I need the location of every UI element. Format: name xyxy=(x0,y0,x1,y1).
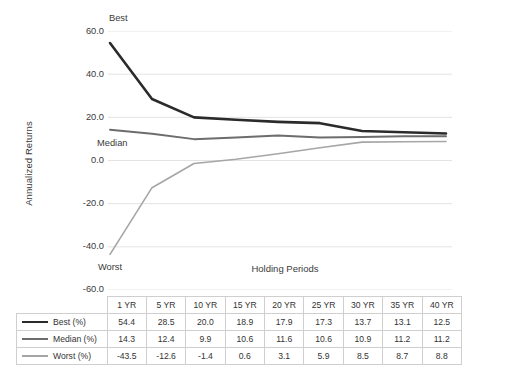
column-header: 10 YR xyxy=(186,297,225,314)
legend-swatch-median xyxy=(22,338,48,340)
table-cell: 17.9 xyxy=(265,314,304,331)
legend-label: Best (%) xyxy=(53,318,86,327)
table-cell: 10.6 xyxy=(304,331,343,348)
legend-label: Median (%) xyxy=(53,335,97,344)
column-header: 30 YR xyxy=(343,297,382,314)
table-cell: 14.3 xyxy=(107,331,146,348)
annotation-median: Median xyxy=(97,138,128,148)
gridlines xyxy=(108,31,452,290)
table-cell: 13.7 xyxy=(343,314,382,331)
table-cell: 11.6 xyxy=(265,331,304,348)
table-cell: -1.4 xyxy=(186,348,225,365)
table-cell: 54.4 xyxy=(107,314,146,331)
table-row: Median (%)14.312.49.910.611.610.610.911.… xyxy=(17,331,462,348)
column-header: 15 YR xyxy=(225,297,264,314)
table-cell: 17.3 xyxy=(304,314,343,331)
table-cell: 11.2 xyxy=(422,331,462,348)
series-line-best xyxy=(110,43,446,133)
table-cell: 9.9 xyxy=(186,331,225,348)
table-body: Best (%)54.428.520.018.917.917.313.713.1… xyxy=(17,314,462,365)
legend-label-cell: Median (%) xyxy=(17,331,108,348)
x-axis-title: Holding Periods xyxy=(108,263,462,274)
y-tick-label: 20.0 xyxy=(56,112,104,122)
column-header: 5 YR xyxy=(146,297,185,314)
column-header: 20 YR xyxy=(265,297,304,314)
legend-label-cell: Best (%) xyxy=(17,314,108,331)
table-cell: 8.7 xyxy=(383,348,422,365)
table-cell: 8.5 xyxy=(343,348,382,365)
table-cell: 13.1 xyxy=(383,314,422,331)
y-axis-title: Annualized Returns xyxy=(23,74,34,254)
y-tick-label: -20.0 xyxy=(56,198,104,208)
annotation-best: Best xyxy=(109,13,128,23)
legend-label-cell: Worst (%) xyxy=(17,348,108,365)
series-lines xyxy=(110,43,446,254)
table-cell: 0.6 xyxy=(225,348,264,365)
table-corner-cell xyxy=(17,297,108,314)
table-cell: 12.4 xyxy=(146,331,185,348)
data-table-container: 1 YR 5 YR 10 YR 15 YR 20 YR 25 YR 30 YR … xyxy=(16,296,462,365)
series-line-worst xyxy=(110,142,446,255)
table-header-row: 1 YR 5 YR 10 YR 15 YR 20 YR 25 YR 30 YR … xyxy=(17,297,462,314)
legend-swatch-worst xyxy=(22,355,48,357)
y-tick-label: -40.0 xyxy=(56,241,104,251)
plot-area xyxy=(108,31,452,290)
column-header: 35 YR xyxy=(383,297,422,314)
chart-figure: Annualized Returns 60.0 40.0 20.0 0.0 -2… xyxy=(0,0,511,379)
series-canvas xyxy=(108,31,452,290)
table-row: Worst (%)-43.5-12.6-1.40.63.15.98.58.78.… xyxy=(17,348,462,365)
table-cell: 10.6 xyxy=(225,331,264,348)
table-cell: 11.2 xyxy=(383,331,422,348)
table-cell: 18.9 xyxy=(225,314,264,331)
table-cell: 8.8 xyxy=(422,348,462,365)
y-tick-label: -60.0 xyxy=(56,284,104,294)
table-cell: 5.9 xyxy=(304,348,343,365)
y-tick-label: 0.0 xyxy=(56,155,104,165)
legend-swatch-best xyxy=(22,321,48,324)
y-tick-label: 40.0 xyxy=(56,69,104,79)
column-header: 25 YR xyxy=(304,297,343,314)
table-cell: -43.5 xyxy=(107,348,146,365)
table-cell: 3.1 xyxy=(265,348,304,365)
table-cell: 20.0 xyxy=(186,314,225,331)
table-cell: 12.5 xyxy=(422,314,462,331)
column-header: 1 YR xyxy=(107,297,146,314)
data-table: 1 YR 5 YR 10 YR 15 YR 20 YR 25 YR 30 YR … xyxy=(16,296,462,365)
table-row: Best (%)54.428.520.018.917.917.313.713.1… xyxy=(17,314,462,331)
table-cell: -12.6 xyxy=(146,348,185,365)
table-cell: 28.5 xyxy=(146,314,185,331)
column-header: 40 YR xyxy=(422,297,462,314)
legend-label: Worst (%) xyxy=(53,352,91,361)
table-cell: 10.9 xyxy=(343,331,382,348)
y-tick-label: 60.0 xyxy=(56,26,104,36)
